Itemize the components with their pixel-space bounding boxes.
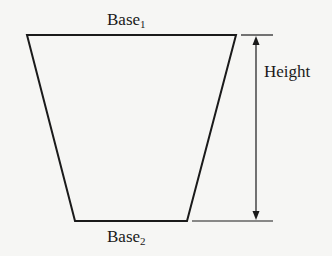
bottom-base-text: Base bbox=[107, 227, 140, 246]
arrow-up-icon bbox=[253, 36, 260, 45]
trapezoid-figure bbox=[0, 0, 332, 256]
arrow-down-icon bbox=[253, 211, 260, 220]
bottom-base-subscript: 2 bbox=[140, 235, 146, 247]
top-base-label: Base1 bbox=[107, 11, 146, 30]
height-label: Height bbox=[264, 63, 310, 80]
bottom-base-label: Base2 bbox=[107, 228, 146, 247]
trapezoid-shape bbox=[27, 35, 236, 221]
trapezoid-diagram: Base1 Height Base2 bbox=[0, 0, 332, 256]
top-base-text: Base bbox=[107, 10, 140, 29]
height-text: Height bbox=[264, 62, 310, 81]
top-base-subscript: 1 bbox=[140, 18, 146, 30]
